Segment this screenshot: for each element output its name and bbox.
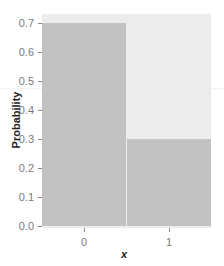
x-tick-label: 1 <box>159 236 179 248</box>
plot-panel <box>42 14 211 228</box>
y-tick-mark <box>38 197 42 198</box>
y-tick-mark <box>38 226 42 227</box>
y-tick-mark <box>38 23 42 24</box>
bar-1 <box>127 139 211 226</box>
y-tick-mark <box>38 168 42 169</box>
y-tick-mark <box>38 110 42 111</box>
y-axis-label: Probability <box>10 85 22 155</box>
y-tick-mark <box>38 81 42 82</box>
bar-0 <box>42 23 126 226</box>
y-tick-label: 0.7 <box>4 18 34 29</box>
y-tick-label: 0.0 <box>4 221 34 232</box>
y-tick-label: 0.1 <box>4 192 34 203</box>
y-tick-mark <box>38 52 42 53</box>
y-tick-label: 0.2 <box>4 163 34 174</box>
y-tick-label: 0.6 <box>4 47 34 58</box>
x-tick-mark <box>84 228 85 232</box>
x-tick-label: 0 <box>74 236 94 248</box>
x-tick-mark <box>169 228 170 232</box>
x-axis-label: x <box>121 248 127 260</box>
y-tick-mark <box>38 139 42 140</box>
